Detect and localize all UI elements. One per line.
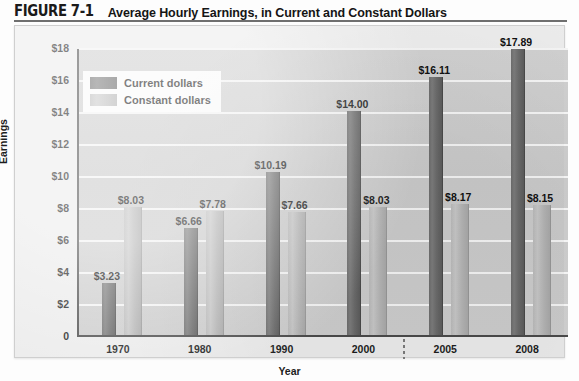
- bar-constant-2005[interactable]: [451, 204, 469, 335]
- legend-swatch-constant-icon: [90, 94, 117, 106]
- gridline: [79, 144, 568, 146]
- bar-value-label: $3.23: [78, 270, 136, 282]
- y-axis-label: Earnings: [0, 119, 9, 164]
- bar-current-1970[interactable]: [102, 283, 116, 335]
- x-axis-tick-2008: 2008: [486, 343, 568, 355]
- figure-title-bar: FIGURE 7-1 Average Hourly Earnings, in C…: [14, 3, 567, 22]
- gridline: [79, 176, 568, 178]
- y-axis-tick: $10: [15, 170, 69, 182]
- gridline: [79, 48, 568, 50]
- gridline: [79, 304, 568, 306]
- bar-current-1980[interactable]: [184, 228, 198, 335]
- bar-value-label: $8.03: [102, 194, 160, 206]
- axis-break-marker: [403, 339, 405, 359]
- legend-label-current: Current dollars: [124, 78, 203, 89]
- bar-value-label: $8.17: [429, 191, 487, 203]
- y-axis-tick: $16: [15, 74, 69, 86]
- bar-current-2000[interactable]: [347, 111, 361, 335]
- bar-value-label: $10.19: [242, 159, 300, 171]
- y-axis-tick: $6: [15, 234, 69, 246]
- bar-value-label: $7.66: [266, 199, 324, 211]
- y-axis-tick: $18: [15, 42, 69, 54]
- gridline: [79, 112, 568, 114]
- legend-item-constant[interactable]: Constant dollars: [90, 94, 211, 106]
- chart-legend: Current dollars Constant dollars: [83, 71, 221, 112]
- y-axis-tick: $12: [15, 138, 69, 150]
- y-axis-tick: $2: [15, 298, 69, 310]
- gridline: [79, 240, 568, 242]
- y-axis-tick: $4: [15, 266, 69, 278]
- bar-constant-1980[interactable]: [206, 211, 224, 335]
- x-axis-tick-2005: 2005: [404, 343, 486, 355]
- figure-number: FIGURE 7-1: [14, 3, 94, 19]
- bar-value-label: $16.11: [405, 64, 463, 76]
- chart-panel: Earnings Year Current dollars Constant d…: [14, 25, 565, 358]
- figure-title: Average Hourly Earnings, in Current and …: [108, 7, 447, 20]
- bar-current-2005[interactable]: [429, 77, 443, 335]
- y-axis-tick: 0: [15, 330, 69, 342]
- figure-container: FIGURE 7-1 Average Hourly Earnings, in C…: [0, 0, 579, 381]
- bar-value-label: $8.03: [347, 194, 405, 206]
- legend-item-current[interactable]: Current dollars: [90, 77, 211, 89]
- bar-constant-2008[interactable]: [533, 205, 551, 335]
- bar-value-label: $8.15: [511, 192, 569, 204]
- x-axis-tick-2000: 2000: [323, 343, 405, 355]
- bar-value-label: $7.78: [184, 198, 242, 210]
- bar-value-label: $17.89: [487, 36, 545, 48]
- x-axis-label: Year: [15, 365, 564, 377]
- bar-value-label: $6.66: [160, 215, 218, 227]
- legend-swatch-current-icon: [90, 77, 117, 89]
- gridline: [79, 272, 568, 274]
- y-axis-tick: $14: [15, 106, 69, 118]
- x-axis-tick-1990: 1990: [241, 343, 323, 355]
- bar-value-label: $14.00: [323, 98, 381, 110]
- bar-constant-2000[interactable]: [369, 207, 387, 335]
- bar-current-1990[interactable]: [266, 172, 280, 335]
- bar-constant-1990[interactable]: [288, 212, 306, 335]
- y-axis-tick: $8: [15, 202, 69, 214]
- legend-label-constant: Constant dollars: [124, 95, 211, 106]
- x-axis-tick-1970: 1970: [77, 343, 159, 355]
- x-axis-tick-1980: 1980: [159, 343, 241, 355]
